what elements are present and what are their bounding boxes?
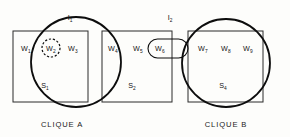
set-box-s4 bbox=[188, 31, 263, 102]
set-label-s2: S2 bbox=[128, 81, 136, 91]
node-label-w2: W2 bbox=[46, 44, 56, 54]
node-label-w4: W4 bbox=[108, 44, 118, 54]
node-label-w5: W5 bbox=[133, 44, 143, 54]
node-label-w7: W7 bbox=[198, 44, 208, 54]
node-label-w3: W3 bbox=[68, 44, 78, 54]
set-box-s2 bbox=[102, 31, 172, 102]
diagram-canvas: I1 I2 W1 W2 W3 W4 W5 W6 W7 W8 W9 S1 S2 S… bbox=[0, 0, 290, 137]
node-label-w6: W6 bbox=[155, 44, 165, 54]
isomorphism-label-i2: I2 bbox=[168, 13, 173, 23]
set-label-s1: S1 bbox=[41, 81, 49, 91]
node-label-w9: W9 bbox=[243, 44, 253, 54]
set-box-s1 bbox=[13, 31, 88, 102]
node-label-w8: W8 bbox=[221, 44, 231, 54]
isomorphism-circle-i2 bbox=[182, 19, 270, 107]
node-label-w1: W1 bbox=[21, 44, 31, 54]
isomorphism-label-i1: I1 bbox=[68, 13, 73, 23]
set-label-s4: S4 bbox=[219, 81, 227, 91]
caption-clique-b: CLIQUE B bbox=[205, 120, 248, 129]
caption-clique-a: CLIQUE A bbox=[41, 120, 83, 129]
figure-root: I1 I2 W1 W2 W3 W4 W5 W6 W7 W8 W9 S1 S2 S… bbox=[0, 0, 290, 137]
